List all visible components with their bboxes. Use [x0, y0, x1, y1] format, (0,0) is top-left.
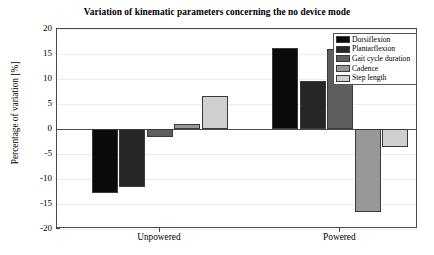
bar [300, 81, 326, 129]
legend[interactable]: DorsiflexionPlantarflexionGait cycle dur… [333, 33, 417, 85]
bar [355, 129, 381, 212]
legend-label: Step length [352, 74, 386, 82]
legend-label: Gait cycle duration [352, 55, 410, 63]
legend-label: Plantarflexion [352, 45, 395, 53]
gridline [57, 29, 416, 30]
bar [147, 129, 173, 137]
bar [92, 129, 118, 193]
y-axis-tick-label: 5 [30, 99, 52, 108]
y-axis-tick-labels: 20151050-5-10-15-20 [28, 28, 52, 228]
bar [202, 96, 228, 129]
legend-item[interactable]: Step length [335, 73, 415, 83]
legend-label: Cadence [352, 65, 378, 73]
y-axis-tick-label: -20 [30, 224, 52, 233]
x-axis-tick-label: Powered [323, 232, 356, 242]
legend-swatch [336, 75, 350, 82]
y-axis-tick-label: 15 [30, 49, 52, 58]
legend-item[interactable]: Cadence [335, 64, 415, 74]
x-axis-tick-labels: UnpoweredPowered [56, 232, 417, 246]
y-axis-tick-label: 0 [30, 124, 52, 133]
y-axis-tick-label: -10 [30, 174, 52, 183]
chart-title: Variation of kinematic parameters concer… [0, 7, 434, 17]
x-axis-tick-label: Unpowered [137, 232, 180, 242]
legend-item[interactable]: Dorsiflexion [335, 35, 415, 45]
gridline [57, 104, 416, 105]
chart-container: Variation of kinematic parameters concer… [0, 0, 434, 255]
legend-swatch [336, 36, 350, 43]
legend-swatch [336, 65, 350, 72]
legend-label: Dorsiflexion [352, 36, 390, 44]
bar [272, 48, 298, 129]
legend-item[interactable]: Gait cycle duration [335, 54, 415, 64]
y-axis-tick-label: 10 [30, 74, 52, 83]
legend-swatch [336, 46, 350, 53]
y-axis-tick-label: 20 [30, 24, 52, 33]
legend-item[interactable]: Plantarflexion [335, 45, 415, 55]
bar [382, 129, 408, 147]
bar [174, 124, 200, 129]
legend-swatch [336, 55, 350, 62]
y-axis-tick-label: -15 [30, 199, 52, 208]
y-axis-label: Percentage of variation [%] [10, 13, 20, 213]
bar [119, 129, 145, 187]
y-axis-tick-label: -5 [30, 149, 52, 158]
